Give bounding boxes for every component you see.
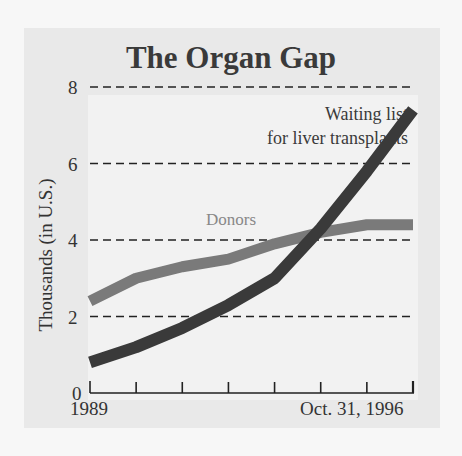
x-tick-label-end: Oct. 31, 1996 [300,398,403,420]
y-tick-label: 8 [68,77,78,98]
y-tick-label: 6 [68,154,78,175]
x-tick-label-start: 1989 [70,398,108,420]
y-tick-label: 4 [68,230,78,251]
waiting-list-label: Waiting list for liver transplants [230,102,408,150]
y-tick-label: 2 [68,307,78,328]
waiting-list-label-line2: for liver transplants [230,126,408,150]
waiting-list-label-line1: Waiting list [230,102,408,126]
donors-label: Donors [206,210,256,230]
